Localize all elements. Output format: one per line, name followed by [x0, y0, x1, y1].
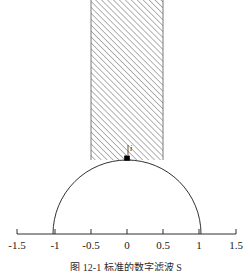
x-tick-label--1.5: -1.5: [8, 240, 25, 251]
x-tick-label--0.5: -0.5: [82, 240, 99, 251]
unit-semicircle: [53, 160, 201, 234]
x-tick-label-1: 1: [196, 240, 202, 251]
figure-container: -1.5 -1 -0.5 0 0.5 1 1.5 i 图 12-1 标准的数字滤…: [0, 0, 252, 271]
x-tick-label--1: -1: [50, 240, 59, 251]
semicircle-hatched-region-plot: [0, 0, 252, 271]
hatched-strip-fill: [91, 0, 163, 160]
figure-caption: 图 12-1 标准的数字滤波 S: [0, 262, 252, 271]
x-tick-label-0: 0: [124, 240, 130, 251]
x-tick-label-1.5: 1.5: [229, 240, 243, 251]
x-axis-ticks: [17, 229, 236, 234]
apex-point-label: i: [130, 145, 132, 153]
x-tick-label-0.5: 0.5: [156, 240, 170, 251]
hatched-strip: [91, 0, 163, 160]
apex-point-marker: [124, 156, 130, 161]
